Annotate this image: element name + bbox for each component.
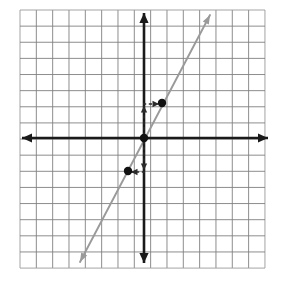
point-lower xyxy=(124,167,132,175)
coordinate-graph-figure xyxy=(0,0,282,285)
point-origin xyxy=(140,134,148,142)
graph-canvas xyxy=(0,0,282,285)
point-upper xyxy=(158,99,166,107)
figure-background xyxy=(0,0,282,285)
